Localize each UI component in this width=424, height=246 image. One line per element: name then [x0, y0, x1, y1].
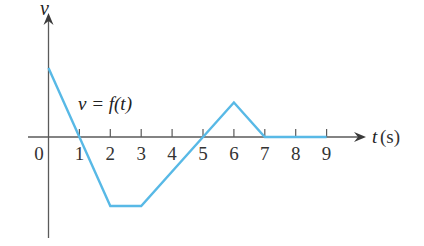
svg-text:v = f(t): v = f(t)	[78, 93, 132, 115]
svg-text:t: t	[372, 126, 378, 147]
function-annotation: v = f(t)	[78, 93, 132, 115]
x-tick-label: 9	[322, 143, 332, 164]
y-axis-label: v	[40, 0, 49, 19]
x-tick-label: 2	[106, 143, 116, 164]
x-axis-label: t (s)	[372, 126, 400, 148]
x-tick-label: 4	[167, 143, 177, 164]
svg-text:(s): (s)	[380, 126, 400, 148]
x-tick-label: 0	[34, 143, 44, 164]
velocity-time-chart: v t (s) 0123456789 v = f(t)	[0, 0, 424, 246]
x-tick-label: 8	[291, 143, 301, 164]
x-tick-label: 3	[136, 143, 146, 164]
x-tick-label: 5	[198, 143, 208, 164]
x-tick-label: 6	[229, 143, 239, 164]
x-tick-label: 7	[260, 143, 270, 164]
